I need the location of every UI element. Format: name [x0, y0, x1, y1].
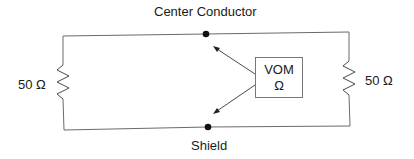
- shield-node-icon: [205, 124, 212, 131]
- left-resistor-value-label: 50 Ω: [18, 78, 46, 92]
- center-conductor-node-icon: [203, 31, 210, 38]
- circuit-diagram: [0, 0, 414, 159]
- right-resistor-icon: [343, 61, 355, 95]
- vom-probe-to-shield: [213, 85, 255, 114]
- vom-probe-to-center: [213, 46, 255, 74]
- shield-label: Shield: [191, 139, 227, 153]
- ohm-symbol-icon: Ω: [255, 79, 303, 93]
- right-resistor-value-label: 50 Ω: [365, 74, 393, 88]
- right-resistor-branch: [343, 32, 355, 126]
- arrow-down-left-icon: [213, 108, 220, 114]
- right-wire-lower: [349, 95, 350, 126]
- arrow-up-left-icon: [213, 46, 220, 52]
- left-resistor-icon: [57, 65, 69, 99]
- left-resistor-branch: [57, 36, 69, 130]
- left-wire-lower: [63, 99, 64, 130]
- vom-meter-label: VOM: [255, 63, 303, 77]
- center-conductor-label: Center Conductor: [154, 5, 257, 19]
